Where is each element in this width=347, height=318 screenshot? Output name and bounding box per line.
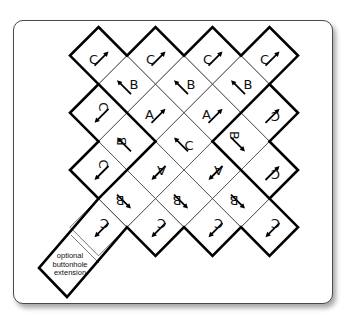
- cell-label-c: C: [89, 52, 98, 67]
- grid-cell: [70, 27, 127, 84]
- grid-cell: [213, 113, 270, 170]
- cell-label-c: C: [184, 138, 193, 153]
- grid-cell: [241, 199, 298, 256]
- cell-label-c: C: [271, 109, 280, 124]
- cell-labels: CCCCBBBCAACBCBCAACBBBCCCC: [89, 52, 280, 238]
- cell-label-c: C: [271, 216, 280, 231]
- grid-cell: [127, 141, 184, 198]
- extension-label-line-3: extension: [54, 268, 86, 277]
- cell-label-c: C: [146, 52, 155, 67]
- cell-label-a: A: [157, 163, 166, 178]
- grid-cell: [241, 141, 298, 198]
- cell-label-c: C: [203, 52, 212, 67]
- grid-cell: [70, 84, 127, 141]
- cell-label-b: B: [173, 193, 182, 208]
- grid-cell: [70, 141, 127, 198]
- cell-label-c: C: [214, 216, 223, 231]
- cell-label-b: B: [187, 77, 196, 92]
- cell-label-c: C: [157, 216, 166, 231]
- cell-label-b: B: [227, 131, 242, 140]
- cell-label-a: A: [145, 107, 154, 122]
- cell-label-b: B: [130, 77, 139, 92]
- cell-label-c: C: [271, 167, 280, 182]
- cell-label-b: B: [230, 193, 239, 208]
- grid-cell: [241, 84, 298, 141]
- cell-label-c: C: [260, 52, 269, 67]
- grid-cell: [241, 27, 298, 84]
- grid-cell: [127, 84, 184, 141]
- grid-cell: [127, 27, 184, 84]
- diamond-grid-diagram: optional buttonhole extension CCCCBBBCAA…: [0, 0, 347, 318]
- cell-label-a: A: [214, 163, 223, 178]
- grid-cell: [184, 27, 241, 84]
- cell-label-b: B: [116, 193, 125, 208]
- inner-right-chevron: [213, 84, 270, 198]
- cell-label-c: C: [100, 216, 109, 231]
- cell-label-c: C: [96, 159, 111, 168]
- cell-label-b: B: [114, 137, 129, 146]
- cell-label-b: B: [244, 77, 253, 92]
- cell-label-c: C: [96, 102, 111, 111]
- cell-label-a: A: [202, 107, 211, 122]
